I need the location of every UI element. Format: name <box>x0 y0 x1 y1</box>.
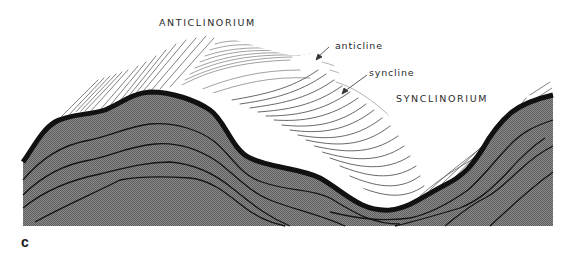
label-synclinorium: SYNCLINORIUM <box>396 94 488 104</box>
label-anticline: anticline <box>335 41 383 51</box>
panel-letter: c <box>21 235 29 249</box>
label-syncline: syncline <box>369 68 414 78</box>
label-anticlinorium: ANTICLINORIUM <box>159 18 256 28</box>
fold-block-diagram <box>0 0 576 253</box>
